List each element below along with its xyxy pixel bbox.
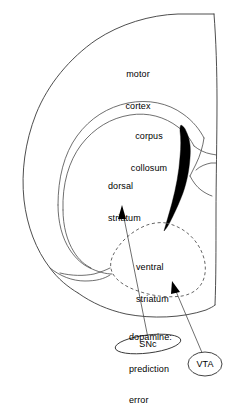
- septal-medial-edge: [190, 138, 204, 176]
- lateral-ventricle-upper: [194, 146, 216, 155]
- label-vta: VTA: [186, 359, 224, 369]
- label-snc: SNc: [128, 339, 168, 349]
- label-motor-cortex-line1: motor: [108, 69, 168, 80]
- ventral-cortex-fold-inner: [60, 268, 110, 275]
- label-ventral-striatum-line2: striatum: [136, 294, 206, 305]
- label-dopamine-line3: error: [129, 395, 201, 406]
- septal-lower-edge: [190, 176, 212, 196]
- label-ventral-striatum-line1: ventral: [136, 262, 206, 273]
- label-corpus-callosum-line1: corpus: [116, 131, 182, 142]
- lateral-ventricle-lower: [196, 163, 216, 170]
- label-dorsal-striatum-line1: dorsal: [108, 181, 178, 192]
- midline-border: [214, 14, 217, 305]
- label-dorsal-striatum-line2: striatum: [108, 213, 178, 224]
- label-dorsal-striatum: dorsal striatum: [108, 160, 178, 244]
